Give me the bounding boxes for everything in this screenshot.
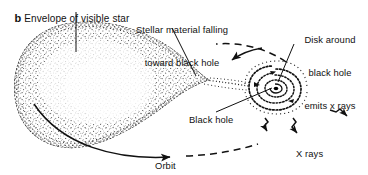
x-rays-label: X rays (296, 148, 323, 159)
stellar-material-label-line1: Stellar material falling (126, 24, 238, 35)
disk-leader-line (278, 44, 294, 82)
stellar-material-label: Stellar material falling toward black ho… (126, 2, 238, 90)
stellar-material-label-line2: toward black hole (126, 57, 238, 68)
figure-panel-b: b Envelope of visible star Stellar mater… (0, 0, 368, 175)
black-hole-label: Black hole (189, 114, 233, 125)
orbit-label: Orbit (155, 160, 176, 171)
black-hole-core (274, 87, 279, 90)
envelope-label: Envelope of visible star (24, 13, 129, 24)
disk-label-line2: black hole (296, 67, 364, 78)
x-ray-arrow-1 (264, 118, 268, 131)
disk-label-line1: Disk around (296, 34, 364, 45)
disk-label-line3: emits x rays (296, 100, 364, 111)
disk-label: Disk around black hole emits x rays (296, 12, 364, 133)
panel-letter-and-envelope-label: b Envelope of visible star (3, 2, 129, 35)
